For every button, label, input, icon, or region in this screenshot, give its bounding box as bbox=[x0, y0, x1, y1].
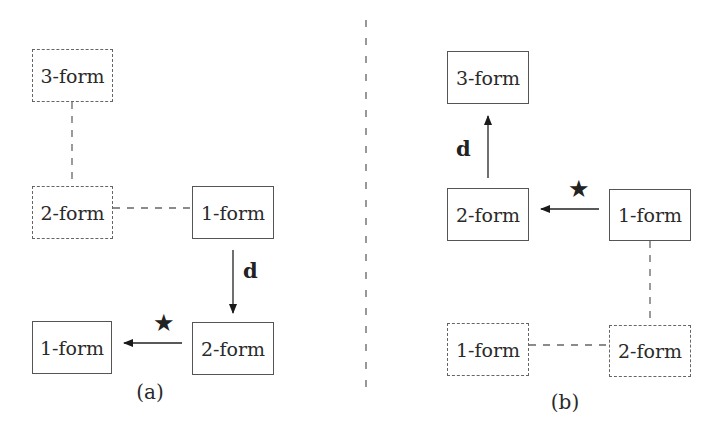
node-b-1form-bottom: 1-form bbox=[447, 323, 529, 376]
node-label: 1-form bbox=[201, 202, 265, 224]
node-label: 1-form bbox=[40, 337, 104, 359]
node-label: 1-form bbox=[618, 204, 682, 226]
node-a-2form-bottom: 2-form bbox=[192, 322, 274, 375]
diagram-canvas: 3-form 2-form 1-form 2-form 1-form d ★ (… bbox=[0, 0, 718, 437]
node-a-2form-top: 2-form bbox=[32, 186, 113, 239]
node-b-2form-top: 2-form bbox=[447, 188, 529, 241]
node-a-1form-bottom: 1-form bbox=[32, 321, 112, 374]
node-b-2form-bottom: 2-form bbox=[609, 325, 691, 377]
edge-label-d-a: d bbox=[243, 258, 258, 283]
node-label: 3-form bbox=[40, 65, 104, 87]
node-label: 2-form bbox=[618, 340, 682, 362]
node-a-3form: 3-form bbox=[32, 49, 113, 102]
node-label: 3-form bbox=[456, 67, 520, 89]
caption-b: (b) bbox=[551, 390, 579, 414]
star-icon: ★ bbox=[568, 177, 590, 201]
node-a-1form-top: 1-form bbox=[192, 186, 274, 239]
star-icon: ★ bbox=[153, 311, 175, 335]
node-b-1form-top: 1-form bbox=[609, 189, 691, 241]
node-label: 2-form bbox=[201, 338, 265, 360]
edge-label-d-b: d bbox=[456, 136, 471, 161]
node-label: 2-form bbox=[456, 204, 520, 226]
node-label: 1-form bbox=[456, 339, 520, 361]
node-b-3form: 3-form bbox=[447, 51, 529, 104]
node-label: 2-form bbox=[40, 202, 104, 224]
caption-a: (a) bbox=[136, 380, 164, 404]
